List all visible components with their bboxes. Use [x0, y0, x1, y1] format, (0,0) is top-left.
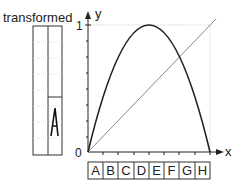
bin-label: A [91, 163, 100, 178]
y-axis-label: y [95, 6, 102, 21]
bin-label: F [168, 163, 176, 178]
bin-label: H [198, 163, 207, 178]
bin-labels: A B C D E F G H [88, 162, 210, 179]
x-axis-label: x [225, 144, 232, 159]
bin-label: E [152, 163, 161, 178]
bin-label: B [106, 163, 115, 178]
transformed-strip [33, 26, 62, 155]
y-tick-1: 1 [76, 19, 83, 33]
stretched-a-glyph [51, 108, 58, 136]
bin-label: D [137, 163, 146, 178]
bin-label: C [121, 163, 130, 178]
x-arrow-icon [216, 149, 224, 155]
origin-label: 0 [75, 146, 82, 160]
y-arrow-icon [85, 11, 91, 19]
bin-label: G [182, 163, 192, 178]
axes: y 1 0 x [75, 6, 232, 160]
transform-diagram: transformed [0, 0, 235, 185]
strip-title: transformed [3, 10, 72, 25]
